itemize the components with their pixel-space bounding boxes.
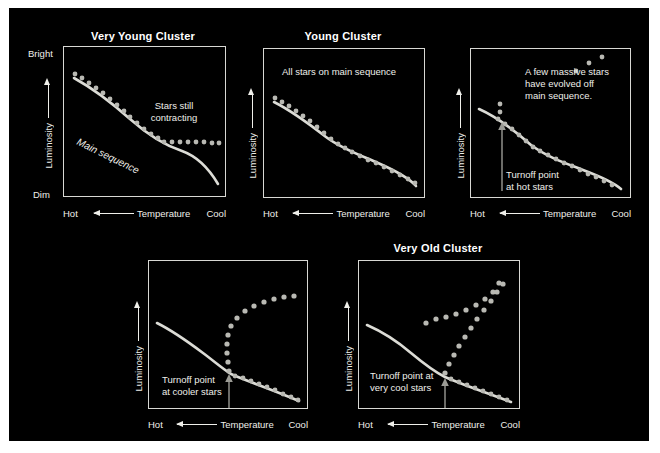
y-axis-label: Luminosity: [343, 346, 354, 391]
x-axis-right-label: Cool: [611, 208, 631, 219]
y-axis-arrow-icon: [138, 307, 139, 341]
x-axis-arrow-icon: [500, 213, 540, 214]
x-axis-right-label: Cool: [206, 208, 226, 219]
x-axis-old-cluster: Hot Temperature Cool: [148, 419, 308, 430]
red-giant-branch-star-dots: [224, 293, 296, 373]
y-axis-top-label-bright: Bright: [28, 48, 53, 59]
x-axis-very-young-cluster: Hot Temperature Cool: [63, 208, 226, 219]
annotation-turnoff-point-cooler-stars: Turnoff point at cooler stars: [162, 374, 272, 398]
y-axis-label: Luminosity: [43, 123, 54, 168]
annotation-all-stars-on-main-sequence: All stars on main sequence: [282, 66, 427, 78]
y-axis-old-cluster: Luminosity: [127, 293, 149, 405]
y-axis-very-old-cluster: Luminosity: [337, 293, 359, 405]
y-axis-label: Luminosity: [247, 133, 258, 178]
main-sequence-curve: [74, 78, 218, 184]
x-axis-left-label: Hot: [148, 419, 163, 430]
x-axis-left-label: Hot: [358, 419, 373, 430]
main-sequence-curve: [274, 102, 416, 186]
figure-canvas: Very Young Cluster Bright Dim Luminosity: [9, 8, 649, 441]
x-axis-young-cluster: Hot Temperature Cool: [263, 208, 425, 219]
x-axis-arrow-icon: [177, 424, 217, 425]
x-axis-very-old-cluster: Hot Temperature Cool: [358, 419, 520, 430]
y-axis-older-cluster: Luminosity: [449, 80, 471, 192]
annotation-stars-still-contracting: Stars still contracting: [129, 100, 219, 124]
y-axis-arrow-icon: [348, 307, 349, 341]
turnoff-point-arrow-icon: [498, 122, 506, 191]
annotation-turnoff-point-very-cool-stars: Turnoff point at very cool stars: [370, 370, 490, 394]
x-axis-older-cluster: Hot Temperature Cool: [470, 208, 631, 219]
red-giant-branch-star-dots: [442, 281, 505, 375]
annotation-turnoff-point-hot-stars: Turnoff point at hot stars: [506, 169, 601, 193]
contracting-star-dots: [162, 140, 222, 146]
x-axis-arrow-icon: [388, 424, 428, 425]
x-axis-right-label: Cool: [405, 208, 425, 219]
y-axis-young-cluster: Luminosity: [241, 80, 263, 192]
y-axis-arrow-icon: [460, 94, 461, 128]
y-axis-label: Luminosity: [133, 346, 144, 391]
x-axis-arrow-icon: [293, 213, 333, 214]
y-axis-bottom-label-dim: Dim: [33, 189, 50, 200]
x-axis-left-label: Hot: [63, 208, 78, 219]
x-axis-arrow-icon: [94, 213, 134, 214]
x-axis-title: Temperature: [336, 208, 389, 219]
x-axis-title: Temperature: [543, 208, 596, 219]
x-axis-title: Temperature: [431, 419, 484, 430]
x-axis-right-label: Cool: [500, 419, 520, 430]
x-axis-left-label: Hot: [263, 208, 278, 219]
panel-title-very-old-cluster: Very Old Cluster: [358, 242, 518, 254]
y-axis-label: Luminosity: [455, 133, 466, 178]
y-axis-arrow-icon: [48, 84, 49, 118]
y-axis-very-young-cluster: Luminosity: [37, 70, 59, 182]
x-axis-title: Temperature: [137, 208, 190, 219]
x-axis-title: Temperature: [220, 419, 273, 430]
y-axis-arrow-icon: [252, 94, 253, 128]
annotation-massive-stars-evolved: A few massive stars have evolved off mai…: [525, 66, 635, 102]
panel-title-young-cluster: Young Cluster: [263, 30, 423, 42]
figure-page: Very Young Cluster Bright Dim Luminosity: [0, 0, 660, 453]
x-axis-left-label: Hot: [470, 208, 485, 219]
x-axis-right-label: Cool: [288, 419, 308, 430]
panel-title-very-young-cluster: Very Young Cluster: [63, 30, 223, 42]
